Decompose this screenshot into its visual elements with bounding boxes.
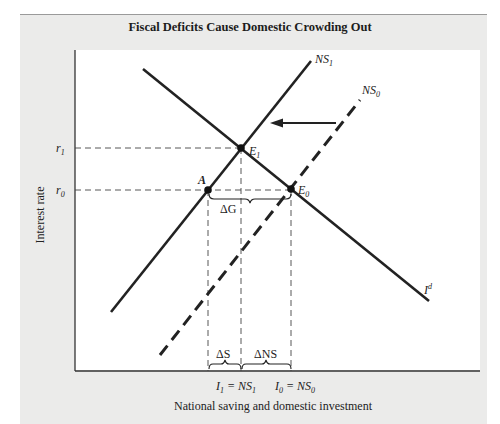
y-axis-label: Interest rate <box>33 187 47 244</box>
delta-ns-label: ΔNS <box>254 347 277 361</box>
delta-g-label: ΔG <box>220 202 237 216</box>
x-tick-i0: I0 = NS0 <box>274 379 315 395</box>
a-label: A <box>197 173 206 187</box>
r0-label: r0 <box>56 183 65 199</box>
r1-label: r1 <box>56 141 65 157</box>
x-axis-label: National saving and domestic investment <box>174 399 373 413</box>
point-e0 <box>287 185 295 193</box>
point-e1 <box>237 144 245 152</box>
delta-s-label: ΔS <box>216 347 230 361</box>
plot-area <box>75 50 480 370</box>
x-tick-i1: I1 = NS1 <box>215 379 256 395</box>
point-a <box>204 186 212 194</box>
